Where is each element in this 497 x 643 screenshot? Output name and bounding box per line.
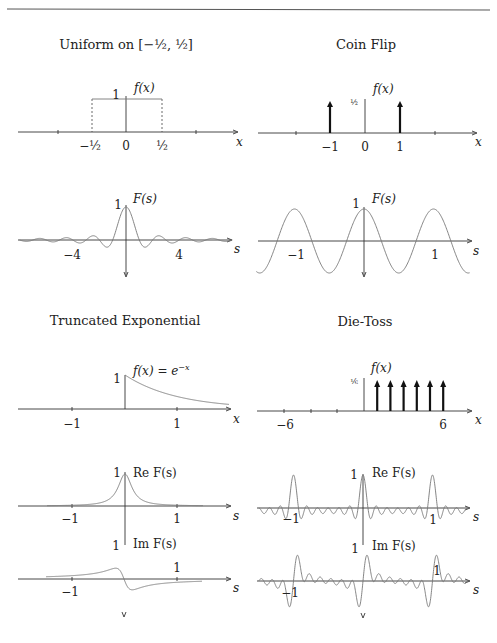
im-die-tick-1: 1: [433, 564, 441, 578]
coin-tick-neg1: −1: [321, 140, 339, 154]
arrow-head-icon: [374, 380, 380, 387]
die-tick-neg6: −6: [276, 418, 294, 432]
coin-title: Coin Flip: [336, 37, 396, 52]
cos-one-label: 1: [352, 197, 360, 211]
uniform-density-plot: Uniform on [−½, ½] 1 f(x) x −½ 0 ½: [18, 37, 243, 153]
uniform-title: Uniform on [−½, ½]: [59, 37, 193, 52]
re-die-s-var: s: [473, 510, 479, 524]
cos-F-label: F(s): [371, 192, 396, 206]
cos-s-var: s: [473, 244, 479, 258]
im-exp-s-var: s: [233, 581, 239, 595]
figure: Uniform on [−½, ½] 1 f(x) x −½ 0 ½ Coin …: [0, 0, 497, 643]
re-die-tick-neg1: −1: [282, 512, 300, 526]
im-die-label: Im F(s): [372, 539, 416, 553]
exp-x-var: x: [233, 412, 240, 426]
im-die-one-label: 1: [351, 542, 359, 556]
re-die-one-label: 1: [350, 468, 358, 482]
cos-tick-neg1: −1: [287, 248, 305, 262]
die-title: Die-Toss: [337, 314, 392, 329]
exponential-title: Truncated Exponential: [50, 313, 201, 328]
exponential-real-transform-plot: 1 Re F(s) s −1 1: [18, 466, 239, 545]
re-exp-tick-neg1: −1: [61, 512, 79, 526]
im-exp-tick-neg1: −1: [61, 585, 79, 599]
exp-one-label: 1: [113, 372, 121, 386]
die-x-var: x: [475, 413, 482, 427]
re-exp-one-label: 1: [113, 466, 121, 480]
coin-tick-zero: 0: [361, 140, 369, 154]
coin-half-label: ½: [350, 98, 358, 107]
exp-tick-neg1: −1: [63, 417, 81, 431]
re-exp-label: Re F(s): [133, 466, 177, 480]
die-f-label: f(x): [370, 361, 392, 375]
arrow-head-icon: [427, 380, 433, 387]
re-die-label: Re F(s): [372, 466, 416, 480]
exponential-density-plot: Truncated Exponential 1 f(x) = e−x x −1 …: [18, 313, 240, 431]
coin-x-var: x: [475, 135, 482, 149]
arrow-head-icon: [414, 380, 420, 387]
sinc-s-var: s: [234, 242, 240, 256]
im-exp-one-label: 1: [112, 539, 120, 553]
uniform-one-label: 1: [112, 88, 120, 102]
coin-tick-one: 1: [396, 140, 404, 154]
sinc-tick-4: 4: [175, 248, 183, 262]
die-tick-6: 6: [439, 418, 447, 432]
uniform-tick-zero: 0: [122, 139, 130, 153]
im-exp-label: Im F(s): [133, 537, 177, 551]
uniform-tick-half: ½: [156, 139, 168, 153]
uniform-tick-neg-half: −½: [79, 139, 101, 153]
die-density-plot: Die-Toss ⅙ f(x) x −6 6: [257, 314, 482, 432]
im-die-s-var: s: [473, 583, 479, 597]
die-real-transform-plot: 1 Re F(s) s −1 1: [257, 466, 479, 545]
exp-f-label: f(x) = e−x: [132, 363, 190, 378]
arrow-head-icon: [401, 380, 407, 387]
sinc-F-label: F(s): [132, 192, 157, 206]
coin-transform-plot: 1 F(s) s −1 1: [256, 192, 479, 277]
uniform-f-label: f(x): [133, 81, 155, 95]
die-sixth-label: ⅙: [350, 377, 358, 386]
re-die-tick-1: 1: [429, 513, 437, 527]
arrow-head-icon: [440, 380, 446, 387]
exp-tick-1: 1: [173, 417, 181, 431]
re-exp-s-var: s: [233, 509, 239, 523]
im-die-tick-neg1: −1: [281, 586, 299, 600]
cos-tick-1: 1: [431, 248, 439, 262]
sinc-one-label: 1: [114, 198, 122, 212]
coin-density-plot: Coin Flip ½ f(x) x −1 0 1: [258, 37, 482, 154]
re-exp-tick-1: 1: [173, 512, 181, 526]
sinc-tick-neg4: −4: [63, 248, 81, 262]
im-exp-tick-1: 1: [173, 561, 181, 575]
coin-f-label: f(x): [372, 82, 394, 96]
die-imag-transform-plot: 1 Im F(s) s −1 1: [257, 539, 479, 618]
exponential-imag-transform-plot: 1 Im F(s) s −1 1: [18, 537, 239, 617]
header-rule: [7, 9, 490, 10]
arrow-head-icon: [387, 380, 393, 387]
uniform-transform-plot: 1 F(s) s −4 4: [18, 192, 240, 277]
uniform-x-var: x: [236, 135, 243, 149]
